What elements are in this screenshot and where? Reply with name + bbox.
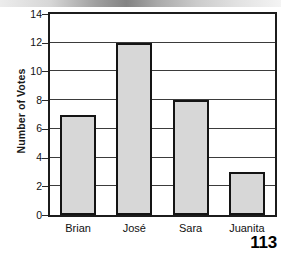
- gridline: [50, 99, 275, 100]
- plot-area: [48, 12, 277, 217]
- y-axis-tick-label: 2: [16, 181, 42, 192]
- y-axis-tick-label: 10: [16, 66, 42, 77]
- y-axis-tick-label: 8: [16, 95, 42, 106]
- bar: [116, 43, 152, 215]
- y-axis-tick-label: 14: [16, 9, 42, 20]
- bar: [229, 172, 265, 215]
- y-axis-tick-label: 6: [16, 123, 42, 134]
- bar-chart-figure: Number of Votes 02468101214 BrianJoséSar…: [0, 0, 281, 254]
- gridline: [50, 70, 275, 71]
- page-number: 113: [250, 233, 277, 253]
- y-axis-tick-label: 0: [16, 210, 42, 221]
- gridline: [50, 42, 275, 43]
- bar: [60, 115, 96, 216]
- y-axis-tick-label: 4: [16, 152, 42, 163]
- bar: [173, 100, 209, 215]
- y-axis-tick-label: 12: [16, 37, 42, 48]
